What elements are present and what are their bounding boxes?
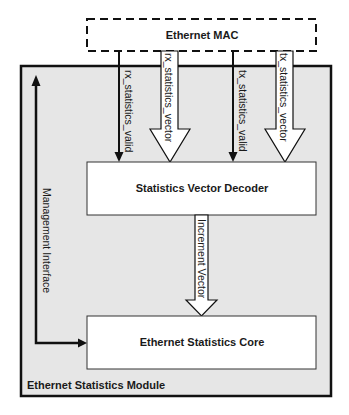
tx-vector-label: tx_statistics_vector [278, 53, 290, 142]
statistics-vector-decoder-block: Statistics Vector Decoder [87, 162, 316, 215]
ethernet-statistics-core-block: Ethernet Statistics Core [87, 316, 316, 369]
ethernet-mac-block: Ethernet MAC [87, 19, 316, 51]
ethernet-mac-label: Ethernet MAC [166, 29, 239, 41]
management-interface-label: Management Interface [41, 188, 53, 293]
rx-vector-label: rx_statistics_vector [163, 53, 175, 143]
rx-valid-label: rx_statistics_valid [123, 70, 135, 152]
tx-valid-label: tx_statistics_valid [237, 70, 249, 152]
decoder-label: Statistics Vector Decoder [136, 182, 269, 194]
diagram-canvas: Ethernet Statistics Module Ethernet MAC … [0, 0, 349, 415]
increment-vector-label: Increment Vector [196, 219, 208, 299]
core-label: Ethernet Statistics Core [140, 336, 265, 348]
module-label: Ethernet Statistics Module [27, 379, 165, 391]
